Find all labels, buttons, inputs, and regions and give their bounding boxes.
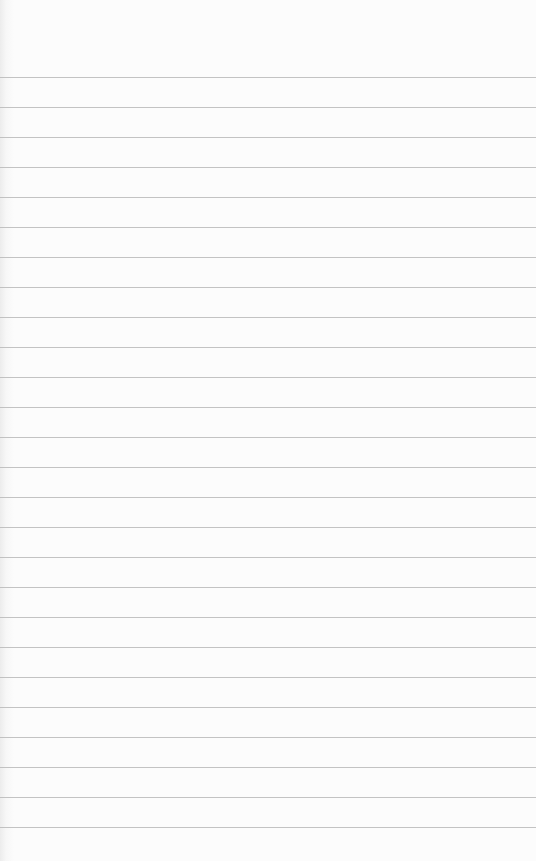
ruled-line bbox=[0, 287, 536, 288]
ruled-line bbox=[0, 437, 536, 438]
ruled-line bbox=[0, 497, 536, 498]
ruled-line bbox=[0, 647, 536, 648]
ruled-line bbox=[0, 257, 536, 258]
ruled-line bbox=[0, 377, 536, 378]
ruled-line bbox=[0, 587, 536, 588]
lined-paper bbox=[0, 0, 536, 861]
ruled-line bbox=[0, 527, 536, 528]
ruled-line bbox=[0, 197, 536, 198]
ruled-line bbox=[0, 707, 536, 708]
ruled-line bbox=[0, 677, 536, 678]
ruled-line bbox=[0, 407, 536, 408]
ruled-line bbox=[0, 767, 536, 768]
ruled-line bbox=[0, 77, 536, 78]
ruled-line bbox=[0, 617, 536, 618]
ruled-line bbox=[0, 797, 536, 798]
ruled-line bbox=[0, 737, 536, 738]
ruled-line bbox=[0, 467, 536, 468]
ruled-line bbox=[0, 347, 536, 348]
ruled-line bbox=[0, 167, 536, 168]
ruled-line bbox=[0, 317, 536, 318]
ruled-line bbox=[0, 827, 536, 828]
ruled-line bbox=[0, 107, 536, 108]
ruled-line bbox=[0, 137, 536, 138]
ruled-line bbox=[0, 227, 536, 228]
ruled-line bbox=[0, 557, 536, 558]
